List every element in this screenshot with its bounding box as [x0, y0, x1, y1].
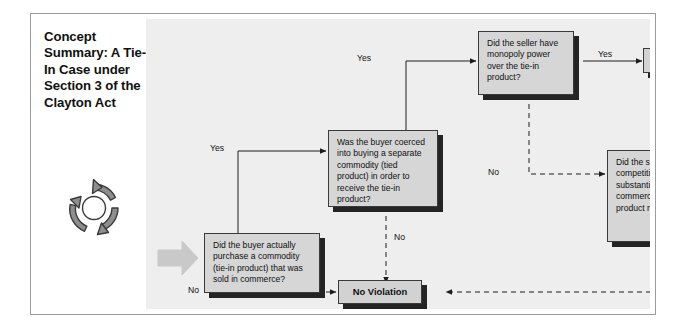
edge-label-no-q2: No	[394, 232, 405, 242]
edge-label-yes-q3: Yes	[598, 49, 612, 59]
decision-node-q2-text: Was the buyer coerced into buying a sepa…	[337, 137, 425, 204]
entry-block-arrow	[156, 239, 200, 277]
terminal-node-violation[interactable]: Violation	[643, 48, 650, 73]
decision-node-q2[interactable]: Was the buyer coerced into buying a sepa…	[328, 130, 438, 207]
decision-node-q3-text: Did the seller have monopoly power over …	[487, 38, 558, 82]
decision-node-q4[interactable]: Did the seller foreclose competition fro…	[607, 150, 650, 242]
flowchart-canvas: Did the buyer actually purchase a commod…	[146, 19, 650, 309]
flowchart-page: Concept Summary: A Tie-In Case under Sec…	[0, 0, 675, 334]
decision-node-q1-text: Did the buyer actually purchase a commod…	[213, 240, 303, 284]
edge-label-no-q1: No	[188, 285, 199, 295]
decision-node-q4-text: Did the seller foreclose competition fro…	[616, 157, 650, 213]
terminal-node-no-violation[interactable]: No Violation	[338, 280, 422, 304]
edge-label-no-q3: No	[488, 167, 499, 177]
cycle-icon	[63, 177, 125, 239]
edge-label-yes-q2: Yes	[357, 53, 371, 63]
terminal-node-no-violation-text: No Violation	[353, 286, 408, 297]
page-title: Concept Summary: A Tie-In Case under Sec…	[44, 29, 148, 111]
edge-label-yes-q1: Yes	[210, 143, 224, 153]
decision-node-q3[interactable]: Did the seller have monopoly power over …	[478, 31, 574, 95]
decision-node-q1[interactable]: Did the buyer actually purchase a commod…	[204, 233, 320, 293]
title-panel: Concept Summary: A Tie-In Case under Sec…	[36, 19, 146, 309]
